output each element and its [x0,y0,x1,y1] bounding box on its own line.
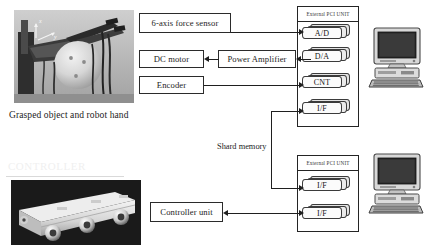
pci-card-ad-label: A/D [302,27,342,39]
link-power-amplifier-to-dc-motor-arrow [204,56,209,62]
pci-card-if-b2[interactable]: I/F [302,204,350,219]
svg-text:x: x [38,18,42,24]
pci-card-da[interactable]: D/A [302,47,350,62]
svg-text:y: y [53,34,57,40]
block-force-sensor[interactable]: 6-axis force sensor [139,13,231,33]
link-force-sensor-to-ad-arrow [299,29,304,35]
link-top-if-stub [271,111,301,112]
external-pci-unit-bottom-title: External PCI UNIT [298,156,358,171]
external-pci-unit-bottom: External PCI UNIT [297,155,359,232]
link-bottom-if1-stub [271,188,301,189]
pci-card-if-top-label: I/F [302,102,342,114]
external-pci-unit-top-title: External PCI UNIT [298,7,358,22]
link-bottom-if2-arrow [299,210,304,216]
pci-card-ad[interactable]: A/D [302,24,350,39]
pci-card-if-top[interactable]: I/F [302,99,350,114]
robot-hand-photo: x y [14,10,134,103]
robot-hand-caption: Grasped object and robot hand [9,110,129,120]
pci-card-da-label: D/A [302,50,342,62]
block-dc-motor[interactable]: DC motor [139,50,204,68]
link-force-sensor-to-ad [231,32,301,33]
pci-card-cnt-label: CNT [302,76,342,88]
link-shared-memory-vertical-a [271,111,272,188]
pci-card-if-b2-label: I/F [302,207,342,219]
pci-card-if-b1[interactable]: I/F [302,176,350,191]
link-controller-unit-arrow [223,210,228,216]
link-encoder-to-cnt [204,85,301,86]
block-controller-unit[interactable]: Controller unit [150,202,223,222]
link-power-amplifier-to-dc-motor [209,59,219,60]
shared-memory-label: Shard memory [217,142,267,151]
figure-canvas: x y Grasped object and robot hand CONTRO… [0,0,433,251]
pci-card-cnt[interactable]: CNT [302,73,350,88]
host-computer-bottom [368,152,426,214]
background-artifact-rule [6,176,124,177]
host-computer-top [368,26,426,88]
link-encoder-to-cnt-arrow [299,82,304,88]
link-da-to-power-amplifier-arrow [296,56,301,62]
block-encoder[interactable]: Encoder [139,76,204,94]
link-bottom-if1-arrow [299,185,304,191]
link-top-if-arrow [299,108,304,114]
controller-unit-photo [11,180,141,245]
background-artifact-text: CONTROLLER [8,160,86,172]
pci-card-if-b1-label: I/F [302,179,342,191]
link-controller-unit-line [228,213,301,214]
block-power-amplifier[interactable]: Power Amplifier [218,50,296,68]
